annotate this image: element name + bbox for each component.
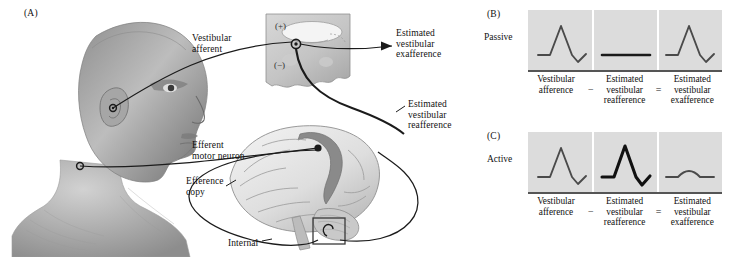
panel-c-tag: (C) <box>487 131 500 141</box>
panel-c-captions: Vestibular afference − Estimated vestibu… <box>524 196 724 228</box>
panel-c-divider-1 <box>592 132 594 192</box>
panel-b-divider-1 <box>592 10 594 70</box>
trace-b-vestibular-afference <box>538 26 586 62</box>
panel-c-traces <box>528 132 722 192</box>
panel-b-divider-2 <box>657 10 659 70</box>
panel-b-captions: Vestibular afference − Estimated vestibu… <box>524 74 724 106</box>
panel-b-caption-2: Estimated vestibular reafference <box>594 74 656 106</box>
panel-c-caption-2: Estimated vestibular reafference <box>594 196 656 228</box>
figure-root: (A) <box>0 0 736 257</box>
panel-c-waveforms <box>528 132 722 192</box>
label-leader-lines <box>0 0 480 257</box>
panel-b-condition: Passive <box>484 32 513 42</box>
panel-c-caption-1: Vestibular afference <box>524 196 588 228</box>
panel-b-caption-3: Estimated vestibular exafference <box>661 74 723 106</box>
trace-c-estimated-exafference <box>666 171 714 177</box>
trace-c-estimated-reafference <box>602 146 650 185</box>
panel-c-baseline <box>528 192 722 194</box>
panel-c-divider-2 <box>657 132 659 192</box>
panel-c-condition: Active <box>487 154 512 164</box>
panel-b-tag: (B) <box>487 9 500 19</box>
panel-b-caption-1: Vestibular afference <box>524 74 588 106</box>
trace-b-estimated-exafference <box>666 26 714 62</box>
panel-c-caption-3: Estimated vestibular exafference <box>661 196 723 228</box>
trace-c-vestibular-afference <box>538 148 586 184</box>
panel-b-baseline <box>528 70 722 72</box>
panel-b-traces <box>528 10 722 70</box>
panel-b-waveforms <box>528 10 722 70</box>
